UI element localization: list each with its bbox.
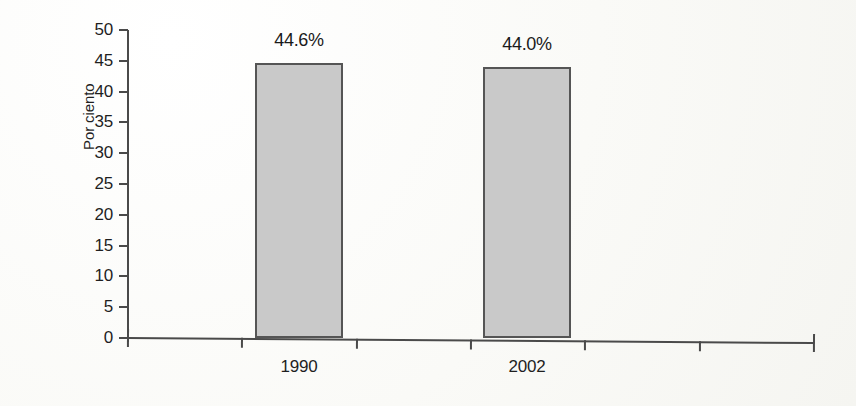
y-axis-tick-label: 15 [73, 237, 113, 254]
x-axis-category-label: 2002 [467, 357, 587, 377]
y-axis-tick [119, 306, 128, 308]
y-axis-tick [119, 183, 128, 185]
y-axis-tick [119, 214, 128, 216]
y-axis-tick-label: 30 [73, 144, 113, 161]
bar [483, 67, 571, 338]
y-axis-tick-label: 20 [73, 206, 113, 223]
x-axis-category-label: 1990 [239, 357, 359, 377]
x-axis-group [127, 337, 813, 343]
y-axis-tick-label: 45 [73, 52, 113, 69]
bar-chart: Por ciento 05101520253035404550 44.6%44.… [0, 0, 856, 406]
y-axis-tick-label: 25 [73, 175, 113, 192]
x-axis-tick [699, 341, 701, 351]
x-axis-tick [127, 329, 129, 347]
y-axis-tick [119, 275, 128, 277]
bar-value-label: 44.6% [219, 30, 379, 51]
y-axis-tick [119, 245, 128, 247]
y-axis-tick-label: 0 [73, 329, 113, 346]
y-axis-tick-label: 50 [73, 21, 113, 38]
x-axis-tick [813, 334, 815, 352]
x-axis-tick [470, 340, 472, 350]
y-axis-tick-label: 10 [73, 267, 113, 284]
y-axis-tick-label: 40 [73, 83, 113, 100]
y-axis-tick [119, 29, 128, 31]
y-axis-tick-label: 5 [73, 298, 113, 315]
x-axis-tick [241, 338, 243, 348]
bar-value-label: 44.0% [447, 34, 607, 55]
y-axis-tick-label: 35 [73, 113, 113, 130]
chart-page: Por ciento 05101520253035404550 44.6%44.… [0, 0, 856, 406]
y-axis-line [127, 30, 129, 342]
x-axis-tick [356, 339, 358, 349]
y-axis-tick [119, 60, 128, 62]
bar [255, 63, 343, 338]
y-axis-tick [119, 91, 128, 93]
y-axis-tick [119, 121, 128, 123]
x-axis-tick [584, 340, 586, 350]
y-axis-tick [119, 152, 128, 154]
